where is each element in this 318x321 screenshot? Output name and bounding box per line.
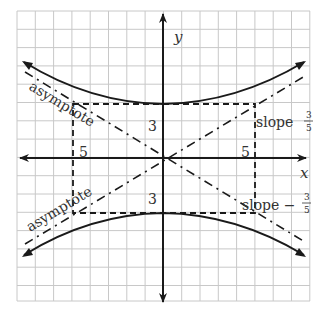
y-axis-label: y [173,28,183,46]
slope-label-negative: slope − 3 5 [242,192,311,215]
slope-label-positive: slope 3 5 [256,110,313,133]
svg-text:5: 5 [304,205,310,215]
hyperbola-diagram: y x 3 3 5 5 asymptote asymptote slope 3 … [0,0,318,321]
label-half-height-bottom: 3 [148,191,157,207]
svg-text:slope: slope [256,114,293,130]
svg-text:slope −: slope − [242,197,296,213]
svg-text:5: 5 [306,123,312,133]
label-half-height-top: 3 [148,118,157,134]
x-axis-label: x [300,164,309,182]
svg-text:3: 3 [304,192,310,202]
svg-text:3: 3 [306,110,312,120]
label-half-width-right: 5 [241,144,250,160]
label-half-width-left: 5 [79,144,88,160]
